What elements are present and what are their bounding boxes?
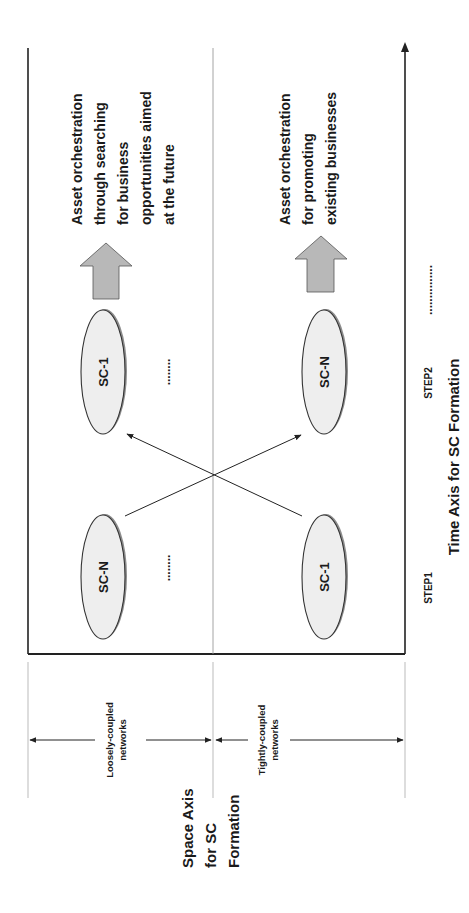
outcome-loosely: Asset orchestration through searching fo… [69, 91, 177, 225]
node-label: SC-N [317, 356, 332, 388]
svg-text:opportunities aimed: opportunities aimed [138, 91, 154, 225]
sc-formation-diagram: Loosely-coupled networks Tightly-coupled… [0, 0, 469, 913]
svg-text:at the future: at the future [161, 144, 177, 225]
svg-text:for business: for business [115, 142, 131, 225]
svg-text:Asset orchestration: Asset orchestration [277, 94, 293, 225]
transition-arrows [125, 434, 302, 516]
space-axis-guides [28, 662, 405, 798]
step1-label: STEP1 [423, 572, 434, 604]
space-axis-title-line1: Space Axis [179, 789, 196, 869]
node-loosely-step1: SC-N [81, 514, 127, 639]
svg-text:for promoting: for promoting [300, 133, 316, 225]
node-label: SC-1 [96, 357, 111, 387]
ellipsis-loosely-step1: ........ [159, 555, 173, 582]
svg-text:through searching: through searching [92, 102, 108, 225]
arrowhead-up-icon [401, 42, 409, 52]
space-axis-title-line2: for SC [202, 823, 219, 868]
time-axis-title: Time Axis for SC Formation [445, 359, 462, 556]
tightly-coupled-label-line2: networks [269, 719, 280, 761]
tightly-coupled-label: Tightly-coupled [256, 705, 267, 776]
node-loosely-step2: SC-1 [81, 309, 127, 434]
time-continuation: ............... [421, 265, 435, 315]
node-label: SC-N [96, 561, 111, 593]
step2-label: STEP2 [423, 367, 434, 399]
block-arrow-up-icon [295, 236, 347, 292]
svg-text:existing businesses: existing businesses [323, 92, 339, 225]
node-label: SC-1 [317, 562, 332, 592]
node-tightly-step1: SC-1 [302, 514, 348, 639]
block-arrow-up-icon [80, 243, 132, 299]
svg-text:Asset orchestration: Asset orchestration [69, 94, 85, 225]
node-tightly-step2: SC-N [302, 309, 348, 434]
outcome-tightly: Asset orchestration for promoting existi… [277, 92, 339, 225]
ellipsis-loosely-step2: ........ [159, 359, 173, 386]
time-axis-arrow [401, 42, 409, 654]
loosely-coupled-label-line2: networks [117, 719, 128, 761]
space-axis-title-line3: Formation [225, 795, 242, 868]
loosely-coupled-label: Loosely-coupled [104, 702, 115, 778]
